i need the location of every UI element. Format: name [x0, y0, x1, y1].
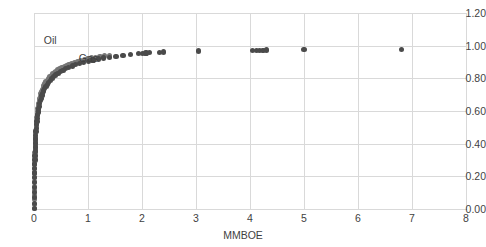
- data-point: [161, 49, 166, 54]
- gridline-x-3: [196, 13, 197, 209]
- gridline-x-7: [412, 13, 413, 209]
- scatter-chart: OilGas 0.000.200.400.600.801.001.20 0123…: [0, 0, 486, 247]
- data-point: [399, 47, 404, 52]
- gridline-x-2: [142, 13, 143, 209]
- data-point: [113, 54, 118, 59]
- data-point: [32, 170, 37, 175]
- x-tick-6: 6: [348, 212, 368, 224]
- x-tick-2: 2: [132, 212, 152, 224]
- y-tick-2: 0.40: [456, 139, 486, 149]
- series-label-oil: Oil: [44, 35, 57, 46]
- gridline-x-4: [250, 13, 251, 209]
- y-tick-1: 0.20: [456, 171, 486, 181]
- data-point: [147, 50, 152, 55]
- data-point: [264, 47, 269, 52]
- gridline-x-5: [304, 13, 305, 209]
- data-point: [32, 161, 37, 166]
- y-tick-4: 0.80: [456, 73, 486, 83]
- y-tick-6: 1.20: [456, 8, 486, 18]
- data-point: [107, 55, 112, 60]
- data-point: [120, 53, 125, 58]
- x-tick-5: 5: [294, 212, 314, 224]
- data-point: [32, 201, 37, 206]
- data-point: [32, 206, 37, 211]
- gridline-x-6: [358, 13, 359, 209]
- x-axis-title: MMBOE: [0, 229, 486, 241]
- gridline-x-1: [88, 13, 89, 209]
- series-label-gas: Gas: [79, 53, 98, 64]
- data-point: [101, 55, 106, 60]
- x-tick-7: 7: [402, 212, 422, 224]
- gridline-y-0: [34, 209, 466, 210]
- y-tick-5: 1.00: [456, 41, 486, 51]
- y-tick-3: 0.60: [456, 106, 486, 116]
- x-tick-0: 0: [24, 212, 44, 224]
- x-tick-4: 4: [240, 212, 260, 224]
- data-point: [128, 52, 133, 57]
- data-point: [301, 47, 306, 52]
- x-tick-8: 8: [456, 212, 476, 224]
- data-point: [196, 48, 201, 53]
- x-tick-1: 1: [78, 212, 98, 224]
- plot-area: OilGas: [34, 13, 466, 209]
- x-tick-3: 3: [186, 212, 206, 224]
